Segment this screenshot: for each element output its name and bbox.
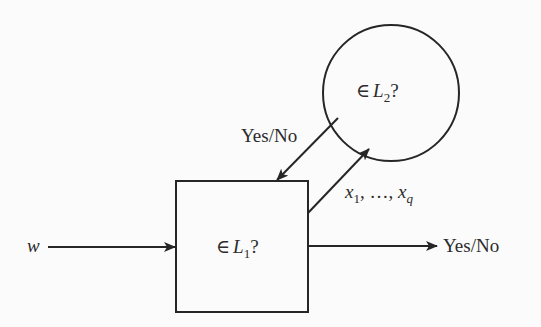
machine-question-mark: ? xyxy=(250,236,258,257)
oracle-label: ∈L2? xyxy=(356,81,399,100)
query-subscript-first: 1 xyxy=(353,191,360,206)
query-ellipsis: , …, xyxy=(360,181,398,202)
oracle-reduction-diagram: ∈L2? ∈L1? w Yes/No x1, …, xq Yes/No xyxy=(0,0,541,327)
query-subscript-last: q xyxy=(406,191,413,206)
input-label: w xyxy=(27,236,40,255)
oracle-language-subscript: 2 xyxy=(384,90,391,105)
machine-language-var: L xyxy=(233,236,244,257)
machine-label: ∈L1? xyxy=(216,237,259,256)
oracle-answer-label: Yes/No xyxy=(241,126,297,145)
element-of-symbol: ∈ xyxy=(216,236,230,257)
query-label: x1, …, xq xyxy=(345,182,413,201)
diagram-graphics xyxy=(0,0,541,327)
oracle-language-var: L xyxy=(373,80,384,101)
machine-language-subscript: 1 xyxy=(244,246,251,261)
element-of-symbol: ∈ xyxy=(356,80,370,101)
oracle-question-mark: ? xyxy=(390,80,398,101)
output-label: Yes/No xyxy=(443,236,499,255)
